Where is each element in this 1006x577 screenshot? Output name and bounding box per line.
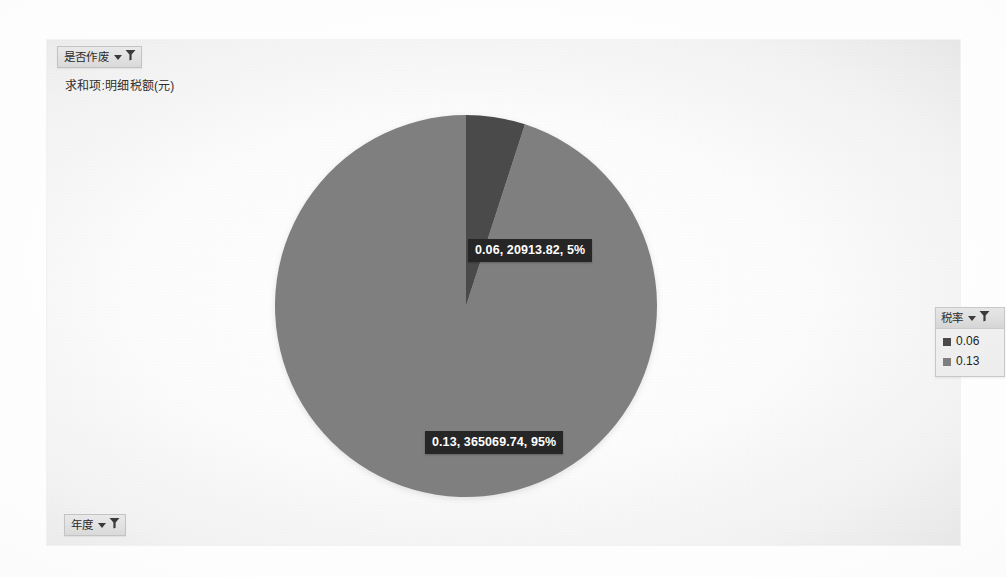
data-label-slice-0.06: 0.06, 20913.82, 5% (468, 239, 592, 262)
chevron-down-icon[interactable] (968, 316, 976, 321)
chart-title: 求和项:明细税额(元) (65, 78, 175, 94)
filter-funnel-icon[interactable] (109, 517, 120, 533)
filter-button-label: 年度 (71, 518, 93, 533)
legend-item-label: 0.13 (956, 354, 979, 369)
filter-funnel-icon[interactable] (979, 310, 990, 326)
legend-filter-button-tax-rate[interactable]: 税率 (936, 308, 1004, 329)
legend-item-label: 0.06 (956, 334, 979, 349)
legend-item-0.13[interactable]: 0.13 (936, 349, 1004, 369)
legend-swatch-icon (943, 338, 951, 346)
filter-button-label: 是否作废 (64, 50, 109, 65)
chevron-down-icon[interactable] (98, 523, 106, 528)
filter-funnel-icon[interactable] (125, 49, 136, 65)
legend-swatch-icon (943, 358, 951, 366)
legend-header-label: 税率 (941, 311, 963, 326)
pivot-chart-panel: 是否作废 求和项:明细税额(元) 0.06, 20913.82, 5% 0.13… (47, 40, 960, 545)
data-label-slice-0.13: 0.13, 365069.74, 95% (425, 431, 563, 454)
filter-button-year[interactable]: 年度 (64, 514, 126, 536)
chart-legend: 税率 0.06 0.13 (935, 307, 1005, 377)
filter-button-invoice-void-status[interactable]: 是否作废 (57, 46, 142, 68)
page-background: 是否作废 求和项:明细税额(元) 0.06, 20913.82, 5% 0.13… (0, 0, 1006, 577)
legend-item-0.06[interactable]: 0.06 (936, 329, 1004, 349)
chevron-down-icon[interactable] (114, 55, 122, 60)
